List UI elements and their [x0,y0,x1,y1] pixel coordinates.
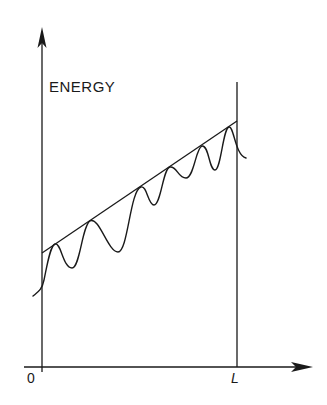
diagram-canvas [0,0,327,405]
x-end-label: L [231,371,239,385]
energy-diagram: ENERGY 0 L [0,0,327,405]
energy-curve [33,127,246,296]
y-axis-label: ENERGY [49,79,115,94]
origin-label: 0 [27,371,35,385]
